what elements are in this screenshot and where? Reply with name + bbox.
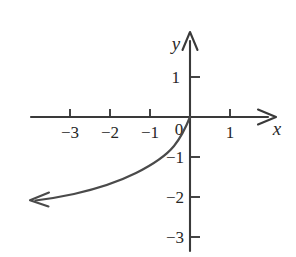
y-tick-label-1: 1	[172, 68, 181, 87]
x-tick-label--1: −1	[141, 123, 159, 142]
x-axis-label: x	[272, 118, 282, 139]
x-tick-label-1: 1	[226, 123, 235, 142]
x-tick-label--3: −3	[61, 123, 79, 142]
y-axis	[183, 32, 198, 251]
x-tick-label--2: −2	[101, 123, 119, 142]
coordinate-plot-figure: −3 −2 −1 1 1 −1 −2 −3 0 y x	[0, 0, 296, 257]
y-tick-label--3: −3	[166, 228, 184, 247]
y-axis-ticks	[190, 77, 200, 237]
y-tick-label--2: −2	[166, 188, 184, 207]
y-axis-label: y	[170, 33, 181, 54]
plot-canvas: −3 −2 −1 1 1 −1 −2 −3 0 y x	[0, 0, 296, 257]
x-axis-ticks	[70, 109, 230, 117]
